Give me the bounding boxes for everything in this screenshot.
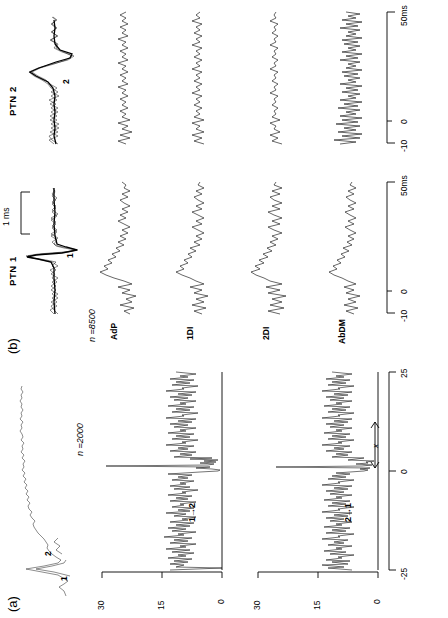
panel-b-letter: (b) <box>6 338 19 354</box>
panel-b-col-title-ptn1: PTN 1 <box>8 256 18 286</box>
panel-a-histogram-1to2 <box>100 370 226 570</box>
panel-b-spike-label-ptn2: 2 <box>62 79 71 84</box>
panel-b-muscle-label-abdm: AbDM <box>338 319 347 344</box>
panel-a-direction-2to1: 2→1 <box>344 503 353 522</box>
panel-b-xtick-0-ptn1: 0 <box>400 289 409 294</box>
panel-a-waveform-label-1: 1 <box>60 576 69 581</box>
panel-a-ytick-15-b: 15 <box>313 601 322 610</box>
panel-a-subpanel-1to2: 30 15 0 1→2 <box>92 362 242 618</box>
panel-a-x-marker-arrow <box>366 416 384 470</box>
panel-b-xtick-0-ptn2: 0 <box>400 119 409 124</box>
panel-b-sta-ptn1-1di <box>170 182 216 314</box>
panel-a-xtick-0: 0 <box>400 469 409 474</box>
panel-a-yaxis-2to1 <box>256 570 382 592</box>
panel-a-yaxis-1to2 <box>100 570 226 592</box>
panel-b-xaxis-ptn2 <box>386 10 398 144</box>
panel-a-histogram-2to1 <box>256 370 382 570</box>
panel-b-sta-ptn1-abdm <box>322 182 368 314</box>
panel-b-col-title-ptn2: PTN 2 <box>8 86 18 116</box>
panel-b-xtick-minus10-ptn2: -10 <box>400 140 409 152</box>
panel-a-letter: (a) <box>6 596 19 612</box>
panel-b-xaxis-ptn1 <box>386 180 398 314</box>
panel-b-n-label: n =8500 <box>88 309 97 342</box>
panel-b-spike-overlay-ptn1 <box>24 186 82 316</box>
panel-b-spike-overlay-ptn2 <box>24 16 82 146</box>
panel-b-sta-ptn1-adp <box>96 182 142 314</box>
panel-b-sta-ptn2-2di <box>246 12 292 144</box>
panel-b-sta-ptn1-2di <box>246 182 292 314</box>
panel-b-scalebar-label: 1 ms <box>2 208 11 226</box>
panel-a-n-label: n =2000 <box>76 423 85 456</box>
panel-a-ytick-0-b: 0 <box>373 599 382 604</box>
panel-b-scalebar-1ms <box>18 188 32 236</box>
panel-b-muscle-label-2di: 2DI <box>262 326 271 340</box>
panel-b-muscle-label-adp: AdP <box>110 323 119 340</box>
panel-a-ytick-30-b: 30 <box>253 601 262 610</box>
panel-a-waveform-label-2: 2 <box>44 551 53 556</box>
panel-b-sta-ptn2-abdm <box>322 12 368 144</box>
panel-b-spike-label-ptn1: 1 <box>66 253 75 258</box>
panel-a-spike-waveforms <box>14 383 74 598</box>
panel-b-muscle-label-1di: 1DI <box>186 326 195 340</box>
figure-rotated-content: (a) 1 2 n =2000 30 15 0 <box>0 0 448 618</box>
panel-a-ytick-15: 15 <box>157 601 166 610</box>
panel-b-xtick-50ms-ptn2: 50ms <box>400 5 409 26</box>
panel-a-xtick-25: 25 <box>400 369 409 378</box>
panel-a-subpanel-2to1: 30 15 0 2→1 x -25 0 25 <box>248 362 408 618</box>
panel-a-x-marker-label: x <box>372 444 380 448</box>
panel-b-sta-ptn2-adp <box>96 12 142 144</box>
panel-a-direction-1to2: 1→2 <box>188 503 197 522</box>
panel-a: (a) 1 2 n =2000 30 15 0 <box>0 362 448 618</box>
panel-b-xtick-50ms-ptn1: 50ms <box>400 175 409 196</box>
figure-canvas: (a) 1 2 n =2000 30 15 0 <box>0 0 448 618</box>
panel-b-xtick-minus10-ptn1: -10 <box>400 310 409 322</box>
panel-a-ytick-0: 0 <box>217 599 226 604</box>
panel-a-xtick-minus25: -25 <box>400 568 409 580</box>
panel-a-ytick-30: 30 <box>97 601 106 610</box>
panel-b: (b) PTN 1 PTN 2 n =8500 1 1 ms <box>0 0 448 356</box>
panel-b-sta-ptn2-1di <box>170 12 216 144</box>
